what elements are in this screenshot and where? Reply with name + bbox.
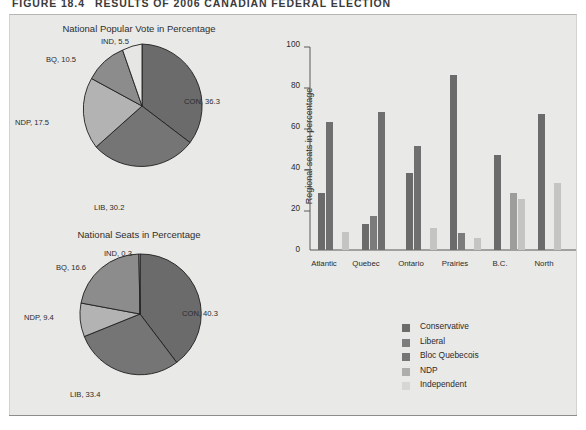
x-tick-bc: B.C. [476,259,524,268]
bar-atlantic-independent [342,232,349,250]
pie-1-title: National Popular Vote in Percentage [14,23,264,34]
legend-label-liberal: Liberal [420,336,445,346]
x-tick-prairies: Prairies [431,259,479,268]
y-tick-80: 80 [278,81,300,90]
legend-swatch-ndp [402,368,410,376]
pie-2-title: National Seats in Percentage [14,229,264,240]
legend-swatch-bloc-quebecois [402,353,410,361]
bar-prairies-liberal [458,233,465,250]
pie-chart-popular-vote: National Popular Vote in Percentage CON [14,23,264,223]
bar-atlantic-liberal [326,122,333,250]
y-tick-60: 60 [278,122,300,131]
legend-swatch-conservative [402,324,410,332]
y-tick-0: 0 [278,245,300,254]
bar-north-independent [554,183,561,250]
pie-2-label-ndp: NDP, 9.4 [24,313,54,322]
figure-header: FIGURE 18.4RESULTS OF 2006 CANADIAN FEDE… [0,0,586,13]
pie-2-slice-bq [81,254,140,314]
bar-ontario-conservative [406,173,413,250]
figure-number: FIGURE 18.4 [12,0,85,9]
figure-panel: National Popular Vote in Percentage CON [9,14,577,416]
legend-swatch-liberal [402,339,410,347]
bar-quebec-conservative [362,224,369,250]
pie-1-label-ndp: NDP, 17.5 [15,118,49,127]
pie-chart-seats: National Seats in Percentage CON, 40.3 [14,223,264,413]
y-tick-40: 40 [278,163,300,172]
bar-bc-independent [518,199,525,250]
panel-bottom-rule [9,415,577,416]
legend-label-independent: Independent [420,379,467,389]
bar-chart-regional-seats: Regional seats in percentage 100 80 60 4… [278,45,578,295]
pie-2-label-lib: LIB, 33.4 [70,390,100,399]
pie-1-label-lib: LIB, 30.2 [94,203,124,212]
pie-1-label-con: CON, 36.3 [184,97,220,106]
bar-bc-conservative [494,155,501,250]
pie-1-label-ind: IND, 5.5 [101,37,129,46]
x-tick-ontario: Ontario [387,259,435,268]
y-tick-100: 100 [278,40,300,49]
bar-ontario-liberal [414,146,421,250]
bar-prairies-conservative [450,75,457,250]
x-tick-north: North [520,259,568,268]
figure-title: RESULTS OF 2006 CANADIAN FEDERAL ELECTIO… [95,0,391,9]
bar-quebec-bloc [378,112,385,250]
pie-2-label-con: CON, 40.3 [182,309,218,318]
pie-1-graphic [77,41,207,171]
legend-label-ndp: NDP [420,365,438,375]
pie-2-label-ind: IND, 0.3 [104,249,132,258]
bar-prairies-independent [474,238,481,250]
legend-label-bloc-quebecois: Bloc Quebecois [420,350,479,360]
legend-swatch-independent [402,382,410,390]
bar-ontario-independent [430,228,437,250]
legend-label-conservative: Conservative [420,321,469,331]
bar-bc-ndp [510,193,517,250]
y-tick-20: 20 [278,204,300,213]
x-tick-quebec: Quebec [342,259,390,268]
x-tick-atlantic: Atlantic [300,259,348,268]
pie-2-label-bq: BQ, 16.6 [56,263,86,272]
figure-root: FIGURE 18.4RESULTS OF 2006 CANADIAN FEDE… [0,0,586,430]
pie-1-label-bq: BQ, 10.5 [46,55,76,64]
bar-quebec-liberal [370,216,377,250]
bar-plot-area [310,47,576,250]
bar-north-conservative [538,114,545,250]
bar-atlantic-conservative [318,193,325,250]
